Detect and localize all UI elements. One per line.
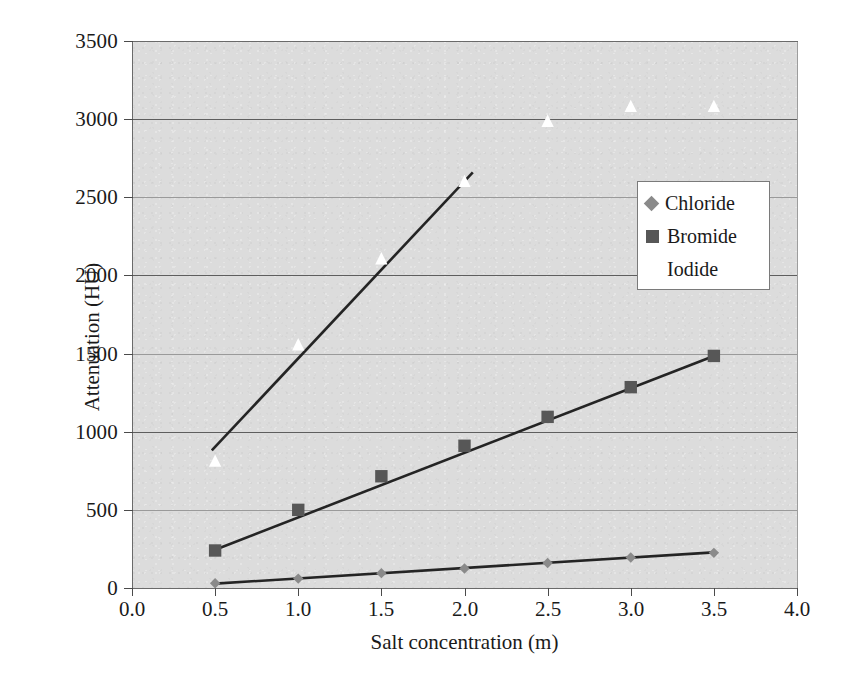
legend-item-label: Iodide [667, 259, 718, 279]
trendline-iodide [212, 172, 473, 450]
legend: ChlorideBromideIodide [637, 181, 770, 290]
marker-bromide [292, 504, 304, 516]
marker-bromide [708, 350, 720, 362]
trendline-bromide [215, 356, 714, 550]
marker-chloride [376, 568, 386, 578]
x-axis-tick-label: 0.5 [202, 597, 228, 622]
x-axis-tick [797, 588, 798, 596]
x-axis-tick [381, 588, 382, 596]
y-axis-tick-label: 2500 [75, 185, 118, 210]
marker-chloride [459, 563, 469, 573]
marker-iodide [625, 100, 637, 112]
x-axis-tick [548, 588, 549, 596]
y-axis-title: Attenuation (HU) [80, 263, 105, 412]
legend-item-iodide[interactable]: Iodide [646, 254, 718, 284]
marker-iodide [209, 454, 221, 466]
y-axis-tick-label: 1000 [75, 420, 118, 445]
marker-bromide [625, 381, 637, 393]
triangle-icon [646, 263, 659, 276]
x-axis-tick-label: 3.5 [701, 597, 727, 622]
marker-chloride [293, 573, 303, 583]
axis-line-right [797, 41, 798, 589]
x-axis-tick-label: 1.0 [285, 597, 311, 622]
x-axis-tick [631, 588, 632, 596]
marker-bromide [375, 470, 387, 482]
y-axis-tick-label: 3000 [75, 107, 118, 132]
chart-figure: 0500100015002000250030003500 0.00.51.01.… [0, 0, 849, 674]
marker-chloride [542, 558, 552, 568]
marker-iodide [292, 338, 304, 350]
square-icon [646, 230, 659, 243]
x-axis-tick-label: 3.0 [618, 597, 644, 622]
y-axis-tick-label: 0 [107, 576, 118, 601]
x-axis-title: Salt concentration (m) [132, 630, 797, 655]
diamond-icon [644, 195, 660, 211]
x-axis-tick-label: 1.5 [368, 597, 394, 622]
legend-item-chloride[interactable]: Chloride [646, 188, 735, 218]
x-axis-tick [132, 588, 133, 596]
y-axis-tick-label: 500 [86, 498, 118, 523]
x-axis-tick-label: 2.5 [535, 597, 561, 622]
x-axis-tick [465, 588, 466, 596]
data-series-layer [132, 41, 797, 588]
series-bromide [209, 350, 720, 557]
series-chloride [210, 548, 719, 589]
marker-iodide [708, 100, 720, 112]
marker-iodide [375, 252, 387, 264]
legend-item-label: Bromide [667, 226, 737, 246]
marker-chloride [626, 552, 636, 562]
marker-chloride [210, 578, 220, 588]
marker-iodide [541, 114, 553, 126]
y-axis-tick-label: 3500 [75, 29, 118, 54]
legend-item-bromide[interactable]: Bromide [646, 221, 737, 251]
marker-bromide [541, 411, 553, 423]
x-axis-tick [298, 588, 299, 596]
x-axis-tick-label: 0.0 [119, 597, 145, 622]
x-axis-tick-label: 4.0 [784, 597, 810, 622]
x-axis-tick [215, 588, 216, 596]
legend-item-label: Chloride [665, 193, 735, 213]
marker-chloride [709, 548, 719, 558]
x-axis-tick-label: 2.0 [452, 597, 478, 622]
marker-bromide [458, 440, 470, 452]
x-axis-tick [714, 588, 715, 596]
marker-bromide [209, 544, 221, 556]
